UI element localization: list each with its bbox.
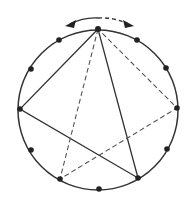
arrow-head-left-icon <box>65 20 76 28</box>
arrow-head-right-icon <box>123 20 134 28</box>
circle-outline <box>18 30 178 190</box>
circle-triangle-diagram <box>0 0 189 200</box>
